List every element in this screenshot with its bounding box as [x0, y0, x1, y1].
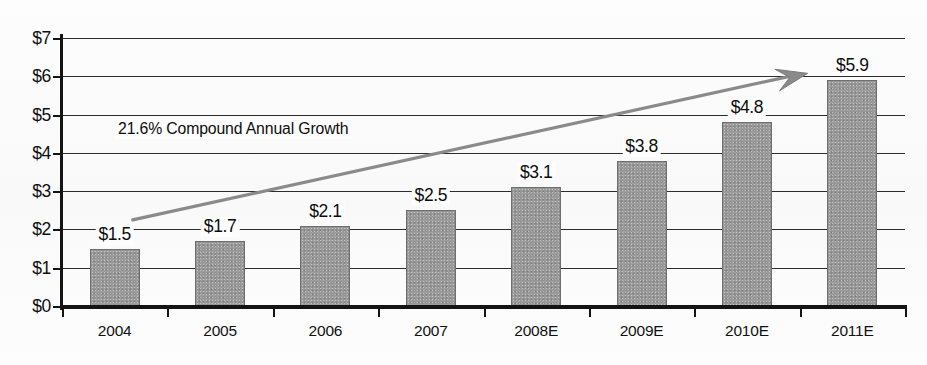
- bar-2011E: [827, 80, 877, 306]
- x-axis-tick-mark: [905, 305, 907, 317]
- bar-value-label-2008E: $3.1: [517, 162, 555, 183]
- bar-value-label-2010E: $4.8: [728, 97, 766, 118]
- y-axis-tick-label: $2: [5, 219, 51, 240]
- gridline: [62, 76, 905, 77]
- x-axis-tick-mark: [800, 305, 802, 317]
- y-axis-tick-mark: [53, 153, 62, 155]
- bar-value-label-2005: $1.7: [201, 216, 239, 237]
- x-axis-label-2008E: 2008E: [514, 322, 558, 340]
- y-axis-tick-label: $1: [5, 257, 51, 278]
- bar-2009E: [617, 161, 667, 306]
- cagr-annotation-label: 21.6% Compound Annual Growth: [114, 119, 352, 139]
- paper-grain-overlay: [0, 0, 927, 365]
- y-axis-tick-mark: [53, 229, 62, 231]
- bar-value-label-2007: $2.5: [412, 185, 450, 206]
- x-axis-label-2009E: 2009E: [620, 322, 664, 340]
- gridline: [62, 191, 905, 192]
- y-axis-tick-mark: [53, 38, 62, 40]
- x-axis-tick-mark: [484, 305, 486, 317]
- bar-2005: [195, 241, 245, 306]
- y-axis-tick-mark: [53, 115, 62, 117]
- x-axis-tick-mark: [378, 305, 380, 317]
- gridline: [62, 153, 905, 154]
- y-axis-tick-mark: [53, 191, 62, 193]
- bar-value-label-2006: $2.1: [306, 201, 344, 222]
- y-axis-tick-label: $6: [5, 66, 51, 87]
- bar-value-label-2009E: $3.8: [622, 136, 660, 157]
- x-axis-tick-mark: [62, 305, 64, 317]
- y-axis-tick-label: $5: [5, 104, 51, 125]
- trend-arrow-icon: [0, 0, 927, 365]
- x-axis-label-2007: 2007: [414, 322, 448, 340]
- gridline: [62, 115, 905, 116]
- x-axis-tick-mark: [694, 305, 696, 317]
- bar-2006: [300, 226, 350, 306]
- x-axis-label-2011E: 2011E: [831, 322, 874, 340]
- bar-2007: [406, 210, 456, 306]
- x-axis-label-2006: 2006: [309, 322, 343, 340]
- bar-2010E: [722, 122, 772, 306]
- bar-2008E: [511, 187, 561, 306]
- x-axis-label-2010E: 2010E: [725, 322, 769, 340]
- x-axis-tick-mark: [589, 305, 591, 317]
- gridline: [62, 38, 905, 39]
- y-axis-tick-label: $4: [5, 142, 51, 163]
- bar-chart-figure: $0$1$2$3$4$5$6$7 $1.5$1.7$2.1$2.5$3.1$3.…: [0, 0, 927, 365]
- gridline: [62, 229, 905, 230]
- x-axis-label-2004: 2004: [98, 322, 132, 340]
- y-axis-tick-mark: [53, 76, 62, 78]
- bar-value-label-2011E: $5.9: [833, 55, 871, 76]
- x-axis-tick-mark: [167, 305, 169, 317]
- gridline: [62, 268, 905, 269]
- y-axis-tick-label: $3: [5, 181, 51, 202]
- y-axis-tick-label: $0: [5, 296, 51, 317]
- x-axis-label-2005: 2005: [203, 322, 237, 340]
- y-axis-tick-label: $7: [5, 28, 51, 49]
- y-axis-tick-mark: [53, 268, 62, 270]
- bar-2004: [90, 249, 140, 306]
- bar-value-label-2004: $1.5: [95, 224, 133, 245]
- x-axis-tick-mark: [273, 305, 275, 317]
